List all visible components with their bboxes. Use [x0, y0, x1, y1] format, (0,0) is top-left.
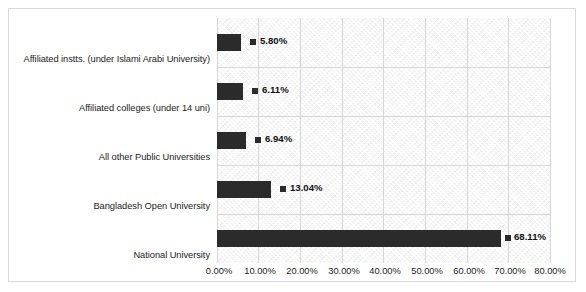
gridline-horizontal: [217, 165, 551, 166]
chart-figure: Affiliated instts. (under Islami Arabi U…: [0, 0, 586, 292]
data-point-marker: [505, 235, 511, 241]
bar-value-label: 68.11%: [514, 231, 546, 243]
axis-tick-label: 10.00%: [244, 265, 276, 277]
axis-tick-label: 20.00%: [286, 265, 318, 277]
bar[interactable]: [217, 230, 501, 247]
bar-value-label: 6.94%: [265, 133, 292, 145]
gridline-horizontal: [217, 214, 551, 215]
gridline-vertical: [342, 18, 343, 263]
gridline-horizontal: [217, 116, 551, 117]
bar[interactable]: [217, 132, 246, 149]
gridline-vertical: [425, 18, 426, 263]
category-label: All other Public Universities: [12, 152, 210, 163]
category-label: Bangladesh Open University: [12, 201, 210, 212]
plot-area: 5.80% 6.11% 6.94% 13.04% 68.11%: [217, 18, 551, 263]
axis-tick-label: 60.00%: [453, 265, 485, 277]
axis-tick-label: 30.00%: [328, 265, 360, 277]
gridline-horizontal: [217, 67, 551, 68]
category-axis: Affiliated instts. (under Islami Arabi U…: [14, 18, 214, 263]
category-label: Affiliated instts. (under Islami Arabi U…: [12, 54, 210, 65]
bar-value-label: 6.11%: [262, 84, 289, 96]
data-point-marker: [250, 39, 256, 45]
value-axis: 0.00% 10.00% 20.00% 30.00% 40.00% 50.00%…: [217, 265, 551, 281]
data-point-marker: [280, 186, 286, 192]
gridline-vertical: [383, 18, 384, 263]
bar[interactable]: [217, 181, 271, 198]
gridline-vertical: [467, 18, 468, 263]
gridline-vertical: [550, 18, 551, 263]
gridline-vertical: [300, 18, 301, 263]
category-label: Affiliated colleges (under 14 uni): [12, 103, 210, 114]
category-label: National University: [12, 250, 210, 261]
bar-value-label: 13.04%: [290, 182, 323, 194]
axis-tick-label: 70.00%: [494, 265, 526, 277]
gridline-vertical: [508, 18, 509, 263]
data-point-marker: [252, 88, 258, 94]
axis-tick-label: 0.00%: [206, 265, 232, 277]
bar[interactable]: [217, 83, 243, 100]
data-point-marker: [255, 137, 261, 143]
axis-tick-label: 40.00%: [369, 265, 401, 277]
axis-tick-label: 50.00%: [411, 265, 443, 277]
axis-tick-label: 80.00%: [534, 265, 566, 277]
bar-value-label: 5.80%: [260, 35, 287, 47]
bar[interactable]: [217, 34, 241, 51]
